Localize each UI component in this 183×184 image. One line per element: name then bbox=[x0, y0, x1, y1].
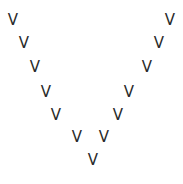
letter-v-right-row-1: V bbox=[164, 13, 176, 28]
letter-v-center-row-7: V bbox=[87, 153, 99, 168]
letter-v-right-row-3: V bbox=[141, 60, 153, 75]
letter-v-left-row-3: V bbox=[29, 60, 41, 75]
letter-v-left-row-4: V bbox=[40, 85, 52, 100]
letter-v-right-row-6: V bbox=[98, 130, 110, 145]
letter-v-left-row-1: V bbox=[7, 13, 19, 28]
letter-v-right-row-2: V bbox=[153, 36, 165, 51]
letter-v-left-row-2: V bbox=[18, 36, 30, 51]
letter-v-right-row-4: V bbox=[123, 85, 135, 100]
letter-v-right-row-5: V bbox=[112, 108, 124, 123]
v-pattern-canvas: V V V V V V V V V V V V V bbox=[0, 0, 183, 184]
letter-v-left-row-5: V bbox=[50, 108, 62, 123]
letter-v-left-row-6: V bbox=[71, 130, 83, 145]
